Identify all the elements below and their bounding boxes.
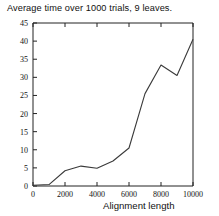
x-tick-label: 4000 bbox=[89, 190, 105, 199]
y-tick-label: 20 bbox=[20, 110, 28, 119]
x-axis-ticks: 0200040006000800010000 bbox=[31, 23, 203, 199]
y-tick-label: 15 bbox=[20, 128, 28, 137]
x-tick-label: 0 bbox=[31, 190, 35, 199]
x-tick-label: 8000 bbox=[153, 190, 169, 199]
x-tick-label: 10000 bbox=[183, 190, 203, 199]
x-tick-label: 6000 bbox=[121, 190, 137, 199]
plot-area: 051015202530354045 020004000600080001000… bbox=[0, 0, 219, 216]
y-tick-label: 40 bbox=[20, 37, 28, 46]
y-tick-label: 5 bbox=[24, 164, 28, 173]
y-tick-label: 30 bbox=[20, 73, 28, 82]
y-tick-label: 25 bbox=[20, 91, 28, 100]
y-axis-ticks: 051015202530354045 bbox=[20, 19, 37, 191]
x-tick-label: 2000 bbox=[57, 190, 73, 199]
y-tick-label: 45 bbox=[20, 19, 28, 28]
y-tick-label: 35 bbox=[20, 55, 28, 64]
y-tick-label: 0 bbox=[24, 182, 28, 191]
data-series-line bbox=[33, 39, 193, 185]
chart-figure: Average time over 1000 trials, 9 leaves.… bbox=[0, 0, 219, 216]
x-axis-label: Alignment length bbox=[103, 200, 174, 211]
y-tick-label: 10 bbox=[20, 146, 28, 155]
